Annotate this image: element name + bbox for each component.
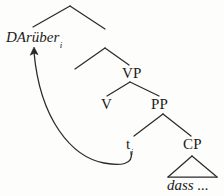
trace-subscript: i <box>131 147 134 157</box>
terminal-label-dass: dass ... <box>167 178 209 193</box>
cp-triangle-right <box>192 156 217 177</box>
syntax-tree-figure: DArüberi VP V PP ti CP dass ... <box>0 0 224 196</box>
node-label-v: V <box>101 97 112 112</box>
branch-upper-left <box>75 48 105 69</box>
branch-root-to-right <box>70 6 105 29</box>
trace-text: t <box>126 136 130 152</box>
node-label-pp: PP <box>151 97 168 112</box>
branch-root-to-darueber <box>33 6 70 27</box>
branch-vp-to-pp <box>130 82 159 96</box>
moved-constituent-label: DArüberi <box>6 30 62 48</box>
moved-constituent-subscript: i <box>60 40 63 50</box>
trace-label: ti <box>126 137 133 155</box>
node-label-vp: VP <box>122 66 142 81</box>
branch-vp-to-v <box>107 82 130 96</box>
moved-constituent-text: DArüber <box>6 29 59 45</box>
node-label-cp: CP <box>183 137 202 152</box>
branch-pp-to-trace <box>134 114 163 136</box>
branch-upper-to-vp <box>105 48 129 65</box>
branch-pp-to-cp <box>163 114 191 136</box>
cp-triangle-left <box>168 156 192 177</box>
